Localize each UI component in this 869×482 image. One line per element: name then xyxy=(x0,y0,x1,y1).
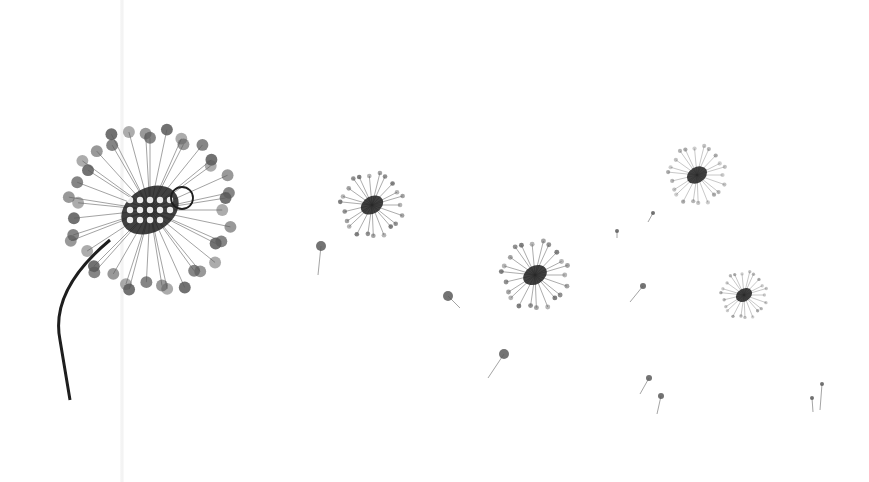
seed xyxy=(820,382,824,410)
floating-head xyxy=(719,270,768,319)
large-dandelion xyxy=(59,124,237,400)
floating-head xyxy=(338,171,405,238)
seed xyxy=(316,241,326,275)
seed xyxy=(810,396,814,412)
seed xyxy=(640,375,652,394)
drifting-seeds xyxy=(316,211,824,414)
seed xyxy=(443,291,460,308)
seed xyxy=(630,283,646,302)
seed xyxy=(657,393,664,414)
floating-head xyxy=(499,239,570,311)
seed xyxy=(648,211,655,222)
dandelion-artwork xyxy=(0,0,869,482)
floating-head xyxy=(666,144,727,205)
seed xyxy=(488,349,509,378)
floating-dandelion-heads xyxy=(338,144,768,319)
seed xyxy=(615,229,619,238)
